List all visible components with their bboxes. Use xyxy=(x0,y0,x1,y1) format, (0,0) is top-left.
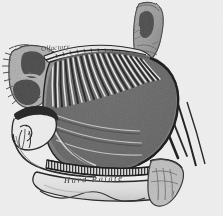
engraving-plate xyxy=(0,0,223,216)
anatomical-figure: Olfactory Hard Palate xyxy=(0,0,223,216)
plate-grain xyxy=(0,0,223,216)
